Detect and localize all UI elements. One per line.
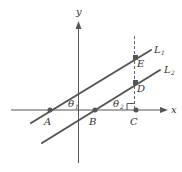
point-D-label: D bbox=[136, 83, 145, 94]
theta1-symbol: θ bbox=[68, 98, 74, 109]
angle-theta2: θ 2 bbox=[113, 98, 124, 110]
coordinate-diagram: x y L 1 L 2 A B C D E θ bbox=[0, 0, 182, 172]
point-C-label: C bbox=[130, 116, 138, 127]
line-L1-subscript: 1 bbox=[161, 49, 165, 56]
x-axis-label: x bbox=[171, 104, 177, 115]
y-axis-arrow-icon bbox=[76, 21, 82, 29]
line-L1-label: L bbox=[153, 44, 161, 55]
point-E-label: E bbox=[136, 58, 145, 69]
line-L2-subscript: 2 bbox=[170, 69, 175, 76]
y-axis: y bbox=[75, 6, 82, 163]
point-B-label: B bbox=[88, 116, 96, 127]
y-axis-label: y bbox=[75, 6, 82, 17]
theta2-subscript: 2 bbox=[119, 103, 124, 110]
theta1-subscript: 1 bbox=[75, 103, 79, 110]
x-axis-arrow-icon bbox=[160, 107, 168, 113]
angle-theta1: θ 1 bbox=[68, 98, 79, 110]
point-A-label: A bbox=[43, 116, 51, 127]
line-L2-label: L bbox=[163, 64, 171, 75]
theta2-symbol: θ bbox=[113, 98, 119, 109]
right-angle-marker bbox=[127, 104, 135, 111]
